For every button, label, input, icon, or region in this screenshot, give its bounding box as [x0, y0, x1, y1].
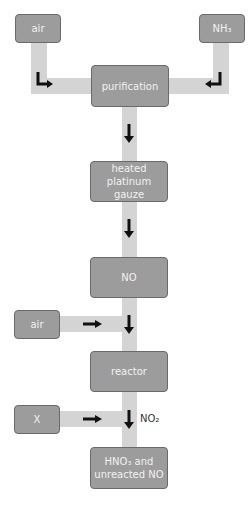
node-purification: purification — [91, 65, 169, 107]
node-air-top-label: air — [31, 22, 44, 35]
arrow-down-icon — [124, 410, 134, 430]
node-no-label: NO — [121, 271, 136, 284]
node-gauze-label-2: platinum gauze — [91, 175, 167, 201]
node-no: NO — [90, 257, 168, 298]
node-purification-label: purification — [102, 80, 159, 93]
elbow-arrow-left-icon — [204, 72, 224, 88]
node-x: X — [14, 405, 60, 434]
arrow-down-icon — [124, 124, 134, 144]
node-air-side: air — [14, 310, 60, 339]
node-nh3: NH₃ — [199, 14, 245, 43]
elbow-arrow-right-icon — [36, 72, 56, 88]
node-reactor: reactor — [90, 351, 168, 392]
node-x-label: X — [34, 413, 41, 426]
node-product: HNO₃ and unreacted NO — [90, 447, 168, 489]
node-reactor-label: reactor — [111, 365, 147, 378]
node-air-top: air — [15, 14, 61, 43]
node-product-label-1: HNO₃ and — [105, 455, 154, 468]
node-heated-platinum-gauze: heated platinum gauze — [90, 161, 168, 202]
arrow-right-icon — [83, 320, 103, 328]
node-nh3-label: NH₃ — [212, 22, 231, 35]
arrow-down-icon — [124, 219, 134, 239]
node-air-side-label: air — [30, 318, 43, 331]
arrow-down-icon — [124, 315, 134, 335]
edge-label-no2: NO₂ — [140, 413, 159, 424]
node-gauze-label-1: heated — [111, 162, 146, 175]
node-product-label-2: unreacted NO — [94, 468, 163, 481]
arrow-right-icon — [83, 415, 103, 423]
